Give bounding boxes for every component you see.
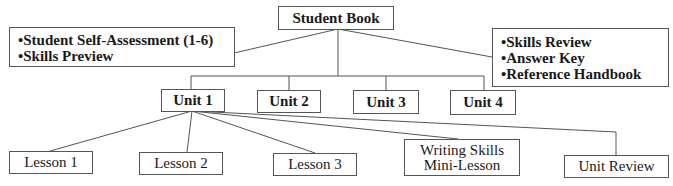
writing-skills-line1: Writing Skills (420, 143, 504, 158)
lesson-1-node: Lesson 1 (9, 151, 93, 174)
back-matter-item: Skills Review (501, 34, 668, 50)
back-matter-item: Answer Key (501, 50, 668, 66)
unit-label: Unit 1 (173, 92, 213, 109)
lesson-label: Lesson 3 (288, 156, 342, 173)
lesson-3-node: Lesson 3 (273, 153, 357, 176)
lesson-2-node: Lesson 2 (139, 152, 223, 175)
unit-label: Unit 4 (463, 94, 503, 111)
back-matter-node: Skills Review Answer Key Reference Handb… (492, 28, 669, 87)
lesson-label: Lesson 1 (24, 154, 78, 171)
student-book-label: Student Book (292, 10, 379, 27)
front-matter-item: Skills Preview (18, 48, 234, 64)
student-book-node: Student Book (278, 6, 394, 30)
unit-2-node: Unit 2 (257, 90, 321, 113)
writing-skills-mini-lesson-node: Writing Skills Mini-Lesson (404, 139, 520, 176)
writing-skills-line2: Mini-Lesson (424, 158, 501, 173)
lesson-label: Lesson 2 (154, 155, 208, 172)
unit-review-node: Unit Review (564, 155, 669, 178)
unit-4-node: Unit 4 (450, 90, 516, 115)
front-matter-node: Student Self-Assessment (1-6) Skills Pre… (9, 27, 235, 67)
back-matter-item: Reference Handbook (501, 66, 668, 82)
front-matter-item: Student Self-Assessment (1-6) (18, 32, 234, 48)
unit-1-node: Unit 1 (161, 89, 225, 112)
unit-3-node: Unit 3 (353, 90, 419, 114)
unit-label: Unit 2 (269, 93, 309, 110)
unit-review-label: Unit Review (578, 158, 654, 175)
unit-label: Unit 3 (366, 94, 406, 111)
